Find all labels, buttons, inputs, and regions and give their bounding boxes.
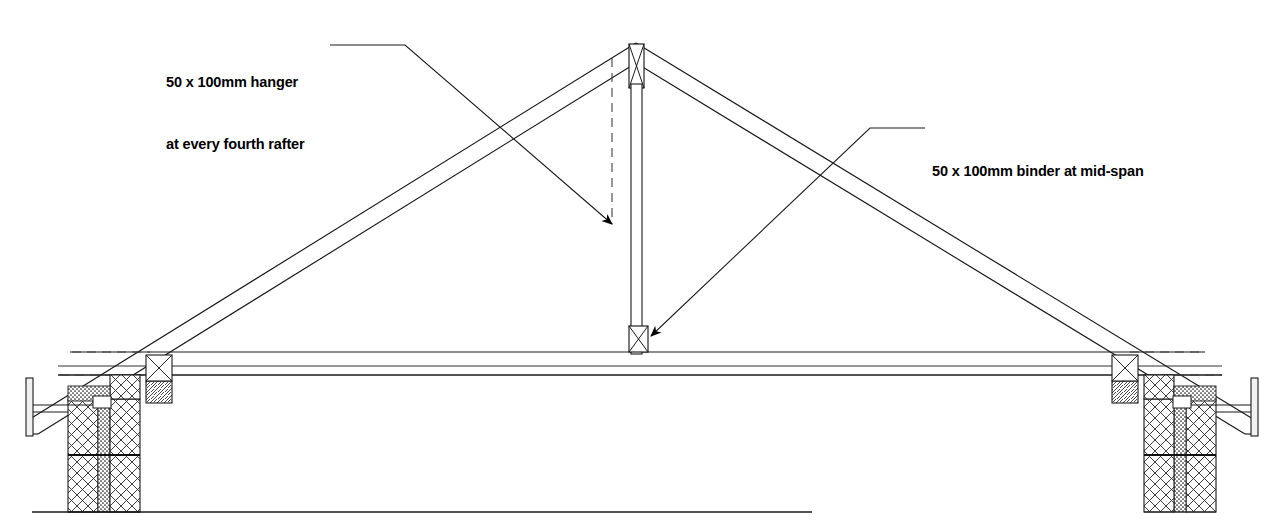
fascia-boards [26,378,1258,436]
right-eaves-block [1173,396,1191,408]
left-timber-wall-plate [146,381,172,403]
ceiling-tie [58,352,1222,375]
roof-covering-line-right [636,43,1253,419]
right-fascia-board [1251,378,1258,436]
truss-apex-joint [629,44,644,88]
leader-lines [330,45,925,336]
hanger-post [631,84,642,354]
annotation-label-binder: 50 x 100mm binder at mid-span [932,120,1144,223]
roof-truss-section-drawing: 50 x 100mm hanger at every fourth rafter… [0,0,1284,526]
roof-covering-line-left [30,43,636,419]
annotation-label-hanger: 50 x 100mm hanger at every fourth rafter [166,31,305,196]
hanger-post-body [631,84,642,354]
annotation-binder-line1: 50 x 100mm binder at mid-span [932,161,1144,182]
binder-block [629,326,648,352]
binder-leader-line [651,128,925,336]
right-wall-assembly [1112,355,1251,512]
left-wall-assembly [33,355,172,512]
left-eaves-block [93,396,111,408]
right-inner-leaf-upper [1144,375,1174,399]
annotation-hanger-line1: 50 x 100mm hanger [166,72,305,93]
annotation-hanger-line2: at every fourth rafter [166,134,305,155]
right-timber-wall-plate [1112,381,1138,403]
left-inner-leaf-upper [110,375,140,399]
left-fascia-board [26,378,33,436]
hanger-leader-line [330,45,612,224]
